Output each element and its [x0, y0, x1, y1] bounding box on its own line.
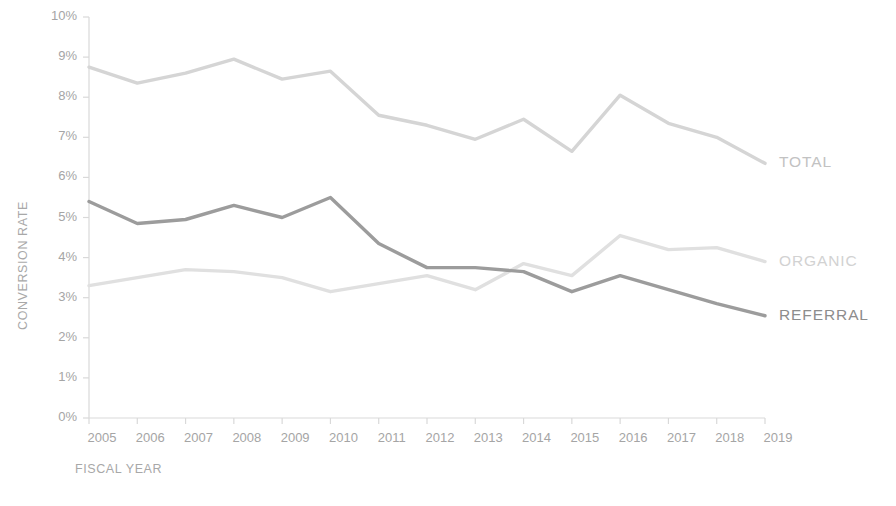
x-tick-label: 2019	[753, 430, 803, 445]
series-line-organic	[89, 236, 765, 292]
x-tick-label: 2006	[125, 430, 175, 445]
y-tick-label: 4%	[33, 249, 77, 264]
series-line-referral	[89, 197, 765, 315]
y-tick-label: 0%	[33, 409, 77, 424]
x-tick-label: 2015	[560, 430, 610, 445]
x-tick-label: 2008	[222, 430, 272, 445]
x-axis-title: FISCAL YEAR	[75, 462, 162, 476]
y-tick-label: 5%	[33, 209, 77, 224]
x-tick-label: 2005	[77, 430, 127, 445]
x-tick-label: 2014	[512, 430, 562, 445]
series-label-organic: ORGANIC	[779, 252, 858, 270]
x-tick-label: 2009	[270, 430, 320, 445]
x-tick-label: 2012	[415, 430, 465, 445]
y-tick-label: 8%	[33, 88, 77, 103]
x-tick-label: 2018	[705, 430, 755, 445]
x-tick-label: 2007	[174, 430, 224, 445]
x-tick-label: 2011	[367, 430, 417, 445]
x-tick-label: 2010	[318, 430, 368, 445]
y-axis-title: CONVERSION RATE	[16, 0, 30, 330]
series-label-referral: REFERRAL	[779, 306, 869, 324]
y-tick-label: 1%	[33, 369, 77, 384]
series-label-total: TOTAL	[779, 153, 832, 171]
series-line-total	[89, 59, 765, 163]
x-tick-label: 2017	[656, 430, 706, 445]
y-tick-label: 7%	[33, 128, 77, 143]
series-paths	[89, 59, 765, 316]
y-tick-label: 6%	[33, 168, 77, 183]
y-tick-label: 10%	[33, 8, 77, 23]
y-tick-label: 2%	[33, 329, 77, 344]
x-tick-label: 2013	[463, 430, 513, 445]
y-tick-label: 3%	[33, 289, 77, 304]
line-chart: 0%1%2%3%4%5%6%7%8%9%10% 2005200620072008…	[0, 0, 896, 506]
x-tick-label: 2016	[608, 430, 658, 445]
y-tick-label: 9%	[33, 48, 77, 63]
